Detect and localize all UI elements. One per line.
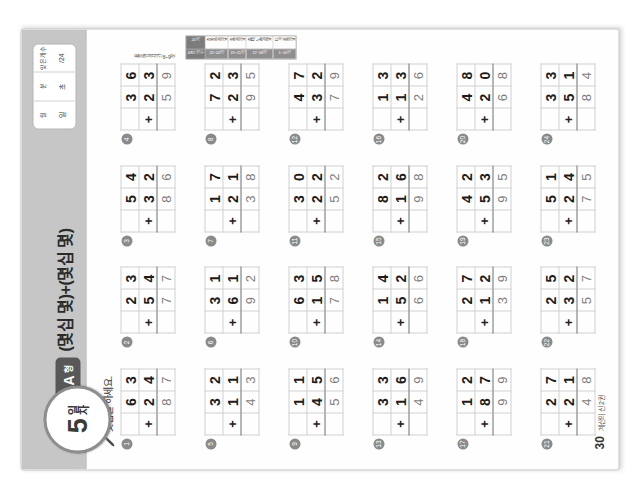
answer-ones[interactable]: 6: [325, 369, 343, 391]
answer-ones[interactable]: 8: [409, 166, 427, 188]
answer-tens[interactable]: 2: [409, 86, 427, 108]
answer-row[interactable]: 68: [493, 64, 511, 130]
answer-row[interactable]: 86: [157, 166, 175, 232]
answer-ones[interactable]: 9: [325, 64, 343, 86]
answer-row[interactable]: 77: [157, 267, 175, 333]
problem-number: 24: [541, 134, 552, 145]
answer-ones[interactable]: 4: [577, 64, 595, 86]
answer-row[interactable]: 52: [325, 166, 343, 232]
answer-row[interactable]: 95: [493, 166, 511, 232]
score-col-time[interactable]: 분 초: [33, 71, 75, 99]
answer-tens[interactable]: 6: [409, 289, 427, 311]
addend2-ones: 2: [139, 166, 157, 188]
addend2-tens: 2: [307, 188, 325, 210]
addend-row-top: 14: [373, 267, 391, 333]
answer-row[interactable]: 79: [325, 64, 343, 130]
answer-cell-empty: [325, 311, 343, 333]
answer-row[interactable]: 59: [157, 64, 175, 130]
answer-ones[interactable]: 6: [409, 64, 427, 86]
addend-row-top: 31: [205, 267, 223, 333]
problem-grid: 1 63+24 872 23+54 773 54+32 864 36+23 59…: [118, 49, 619, 449]
answer-tens[interactable]: 7: [577, 188, 595, 210]
answer-row[interactable]: 57: [577, 267, 595, 333]
answer-row[interactable]: 78: [325, 267, 343, 333]
answer-tens[interactable]: 9: [241, 86, 259, 108]
answer-ones[interactable]: 7: [157, 369, 175, 391]
answer-ones[interactable]: 7: [577, 267, 595, 289]
answer-row[interactable]: 87: [157, 369, 175, 435]
answer-tens[interactable]: 3: [241, 188, 259, 210]
answer-ones[interactable]: 9: [409, 369, 427, 391]
answer-tens[interactable]: 6: [493, 86, 511, 108]
addend-row-top: 27: [541, 369, 559, 435]
addend-row-top: 33: [373, 369, 391, 435]
answer-ones[interactable]: 6: [157, 166, 175, 188]
answer-tens[interactable]: 8: [157, 391, 175, 413]
addend2-ones: 1: [223, 369, 241, 391]
op-cell-empty: [373, 413, 391, 435]
score-col-date[interactable]: 월 일: [33, 100, 75, 128]
answer-ones[interactable]: 5: [241, 64, 259, 86]
answer-tens[interactable]: 5: [577, 289, 595, 311]
answer-tens[interactable]: 9: [409, 188, 427, 210]
answer-ones[interactable]: 8: [325, 267, 343, 289]
addend1-ones: 3: [289, 267, 307, 289]
answer-ones[interactable]: 8: [241, 166, 259, 188]
answer-tens[interactable]: 8: [157, 188, 175, 210]
answer-ones[interactable]: 9: [157, 64, 175, 86]
vertical-addition-box: 48+20 68: [456, 64, 511, 131]
answer-ones[interactable]: 3: [241, 369, 259, 391]
answer-row[interactable]: 95: [241, 64, 259, 130]
answer-tens[interactable]: 4: [409, 391, 427, 413]
op-cell-empty: [289, 311, 307, 333]
answer-ones[interactable]: 9: [493, 369, 511, 391]
addend-row-bottom: +54: [139, 267, 157, 333]
answer-ones[interactable]: 2: [325, 166, 343, 188]
plus-icon: +: [475, 413, 493, 435]
answer-row[interactable]: 99: [493, 369, 511, 435]
answer-ones[interactable]: 8: [577, 369, 595, 391]
day-number: 5: [64, 418, 91, 433]
problem-item: 19 42+53 95: [454, 151, 538, 247]
op-cell-empty: [121, 210, 139, 232]
answer-tens[interactable]: 7: [157, 289, 175, 311]
answer-tens[interactable]: 9: [493, 391, 511, 413]
answer-row[interactable]: 98: [409, 166, 427, 232]
vertical-addition-box: 63+15 78: [288, 267, 343, 334]
answer-ones[interactable]: 2: [241, 267, 259, 289]
answer-tens[interactable]: 4: [241, 391, 259, 413]
problem-number: 13: [373, 438, 384, 449]
answer-tens[interactable]: 9: [241, 289, 259, 311]
reference-table: 맞은 개수24개22~24개참 잘했어요19~21개잘했어요17~18개좀더 노…: [185, 35, 296, 59]
answer-row[interactable]: 39: [493, 267, 511, 333]
addend-row-top: 72: [205, 64, 223, 130]
answer-row[interactable]: 56: [325, 369, 343, 435]
answer-row[interactable]: 26: [409, 64, 427, 130]
answer-row[interactable]: 49: [409, 369, 427, 435]
answer-ones[interactable]: 9: [493, 267, 511, 289]
answer-tens[interactable]: 9: [493, 188, 511, 210]
plus-icon: +: [223, 108, 241, 130]
answer-tens[interactable]: 5: [325, 391, 343, 413]
answer-tens[interactable]: 3: [493, 289, 511, 311]
answer-tens[interactable]: 8: [577, 86, 595, 108]
answer-ones[interactable]: 5: [493, 166, 511, 188]
answer-row[interactable]: 92: [241, 267, 259, 333]
answer-ones[interactable]: 6: [409, 267, 427, 289]
answer-ones[interactable]: 5: [577, 166, 595, 188]
answer-tens[interactable]: 5: [157, 86, 175, 108]
answer-row[interactable]: 75: [577, 166, 595, 232]
addend1-tens: 1: [373, 289, 391, 311]
answer-tens[interactable]: 5: [325, 188, 343, 210]
answer-row[interactable]: 38: [241, 166, 259, 232]
answer-row[interactable]: 43: [241, 369, 259, 435]
addend1-tens: 4: [457, 86, 475, 108]
day-badge: 5 일차: [43, 385, 111, 453]
answer-row[interactable]: 84: [577, 64, 595, 130]
answer-ones[interactable]: 7: [157, 267, 175, 289]
answer-tens[interactable]: 7: [325, 289, 343, 311]
score-col-correct[interactable]: 맞은 개수 /24: [33, 44, 75, 71]
answer-tens[interactable]: 7: [325, 86, 343, 108]
answer-row[interactable]: 66: [409, 267, 427, 333]
answer-ones[interactable]: 8: [493, 64, 511, 86]
